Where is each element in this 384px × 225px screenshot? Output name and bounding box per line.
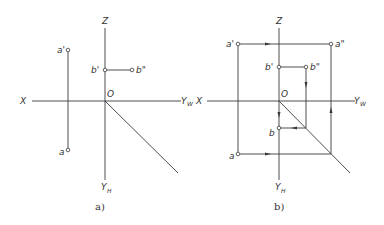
- x-axis-label: X: [195, 96, 203, 106]
- yh-axis-sub: H: [281, 187, 286, 194]
- yh-axis-sub: H: [107, 187, 112, 194]
- arrow-down-icon: [278, 112, 281, 118]
- point-b-prime: [103, 68, 107, 72]
- caption-a: a): [95, 201, 105, 212]
- arrow-right-icon: [265, 43, 271, 46]
- label-a-dprime: a": [335, 39, 345, 49]
- point-a: [66, 148, 70, 152]
- point-a-prime: [66, 48, 70, 52]
- 45-degree-line: [105, 101, 178, 173]
- figure-a: X Z O Y W Y H a' a b' b" a): [19, 16, 194, 212]
- point-a-prime: [236, 42, 240, 46]
- label-a-prime: a': [57, 45, 65, 55]
- label-a: a: [59, 147, 65, 157]
- origin-label: O: [281, 89, 288, 99]
- point-b-dprime: [304, 65, 308, 69]
- label-a: a: [229, 151, 235, 161]
- figure-b: X Z O Y W Y H a' a" a b' b" b b): [195, 16, 367, 212]
- yw-axis-sub: W: [187, 100, 194, 107]
- arrow-right-icon: [265, 153, 271, 156]
- projection-diagram: X Z O Y W Y H a' a b' b" a): [0, 0, 384, 225]
- label-b-prime: b': [265, 62, 273, 72]
- label-b: b: [269, 128, 275, 138]
- arrow-down-icon: [305, 82, 308, 88]
- caption-b: b): [274, 201, 284, 212]
- origin-label: O: [107, 89, 114, 99]
- x-axis-label: X: [19, 96, 27, 106]
- label-b-dprime: b": [136, 65, 146, 75]
- yw-axis-sub: W: [360, 100, 367, 107]
- point-a: [236, 152, 240, 156]
- arrow-up-icon: [330, 107, 333, 113]
- point-a-dprime: [329, 42, 333, 46]
- point-b: [277, 126, 281, 130]
- point-b-dprime: [130, 68, 134, 72]
- label-b-prime: b': [91, 65, 99, 75]
- point-b-prime: [277, 65, 281, 69]
- arrow-left-icon: [291, 127, 297, 130]
- 45-degree-line: [279, 101, 350, 173]
- label-b-dprime: b": [310, 62, 320, 72]
- z-axis-label: Z: [275, 16, 283, 26]
- label-a-prime: a': [226, 39, 234, 49]
- z-axis-label: Z: [101, 16, 109, 26]
